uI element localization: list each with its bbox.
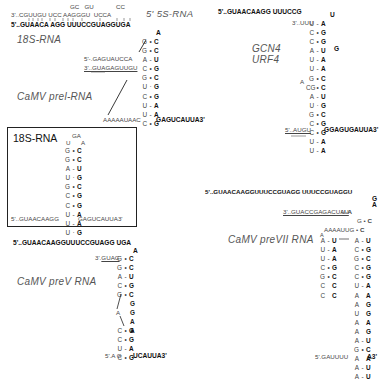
- base-pair-ticks: [29, 18, 130, 21]
- base-pair: A-U: [351, 372, 374, 381]
